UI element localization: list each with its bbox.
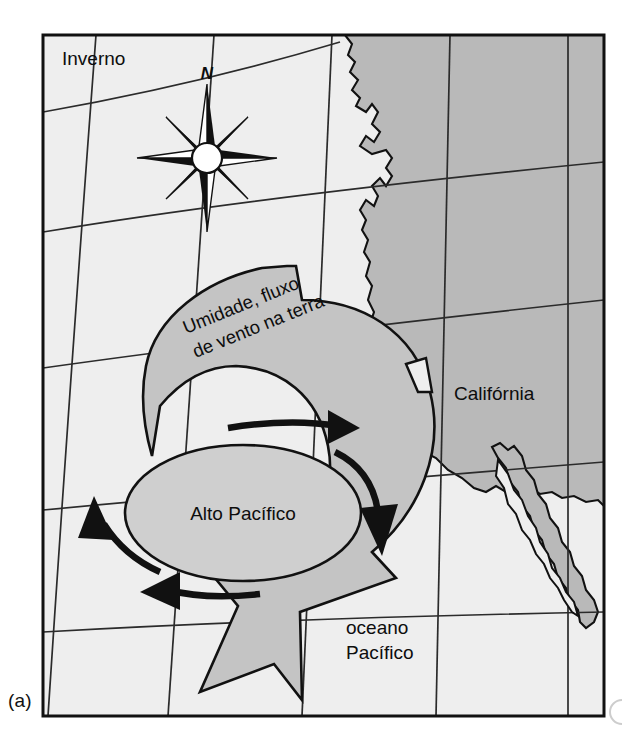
season-label: Inverno [62, 48, 125, 69]
pacific-high-label: Alto Pacífico [190, 503, 296, 524]
panel-label: (a) [8, 690, 32, 712]
compass-center-circle [192, 143, 222, 173]
corner-registration-mark [610, 700, 622, 724]
california-label: Califórnia [454, 383, 535, 404]
ocean-label-line1: oceano [346, 617, 408, 638]
ocean-label-line2: Pacífico [346, 642, 414, 663]
winter-pacific-circulation-map: N Inverno Califórnia oceano Pacífico Alt… [0, 0, 634, 748]
compass-north-label: N [201, 64, 214, 83]
figure-root: N Inverno Califórnia oceano Pacífico Alt… [0, 0, 634, 748]
